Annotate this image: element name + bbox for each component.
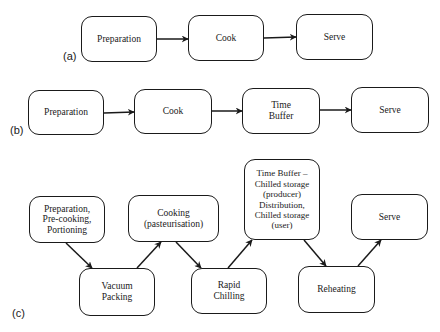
panel-label-b: (b) bbox=[10, 124, 23, 136]
panel-label-c: (c) bbox=[12, 307, 25, 319]
node-b-preparation: Preparation bbox=[28, 90, 104, 135]
arrow-b-prep-cook bbox=[104, 112, 134, 113]
node-c-reheating: Reheating bbox=[298, 266, 375, 313]
node-a-serve: Serve bbox=[296, 14, 373, 60]
node-b-cook: Cook bbox=[134, 89, 212, 134]
node-b-serve: Serve bbox=[351, 87, 429, 133]
node-c-rapid-chilling: Rapid Chilling bbox=[191, 268, 267, 314]
node-c-serve: Serve bbox=[351, 194, 428, 240]
node-a-cook: Cook bbox=[188, 15, 264, 61]
arrow-c-cooking-chilling bbox=[176, 242, 201, 268]
node-b-time-buffer: Time Buffer bbox=[242, 88, 320, 134]
arrow-c-reheating-serve bbox=[358, 240, 381, 266]
flow-diagram: (a) Preparation Cook Serve (b) Preparati… bbox=[0, 0, 440, 332]
node-c-cooking: Cooking (pasteurisation) bbox=[128, 195, 219, 242]
node-c-vacuum-packing: Vacuum Packing bbox=[79, 268, 155, 316]
arrow-c-prep-vacuum bbox=[66, 243, 92, 268]
panel-label-a: (a) bbox=[63, 50, 76, 62]
node-a-preparation: Preparation bbox=[81, 16, 157, 62]
arrow-c-vacuum-cooking bbox=[137, 242, 161, 268]
node-c-preparation: Preparation, Pre-cooking, Portioning bbox=[29, 196, 105, 243]
arrow-c-buffer-reheating bbox=[304, 240, 326, 266]
arrow-a-cook-serve bbox=[264, 37, 296, 38]
node-c-time-buffer: Time Buffer – Chilled storage (producer)… bbox=[244, 159, 320, 240]
arrow-c-chilling-buffer bbox=[228, 240, 252, 268]
